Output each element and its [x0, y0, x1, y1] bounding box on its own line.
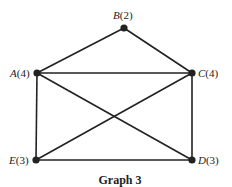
node-a	[33, 69, 40, 76]
node-c	[188, 69, 195, 76]
node-e	[32, 156, 39, 163]
nodes	[32, 24, 195, 163]
graph-diagram: B(2) A(4) C(4) E(3) D(3) Graph 3	[0, 0, 232, 187]
label-c: C(4)	[198, 67, 219, 80]
node-d	[188, 156, 195, 163]
edge-b-c	[124, 28, 192, 73]
node-b	[120, 24, 127, 31]
edge-a-e	[36, 73, 37, 160]
graph-caption: Graph 3	[98, 173, 141, 187]
label-b: B(2)	[113, 9, 133, 22]
label-a: A(4)	[9, 67, 30, 80]
label-e: E(3)	[8, 154, 29, 167]
edge-a-b	[37, 28, 124, 73]
label-d: D(3)	[197, 154, 219, 167]
edges	[36, 28, 192, 160]
